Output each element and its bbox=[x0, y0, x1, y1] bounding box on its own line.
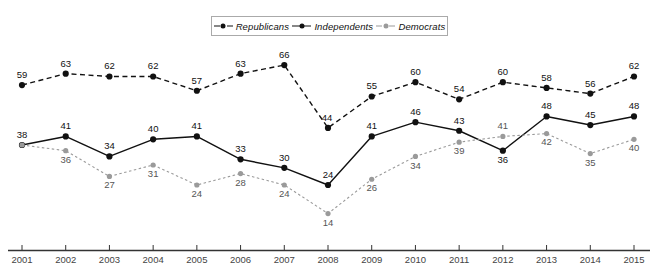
data-point[interactable] bbox=[281, 165, 287, 171]
data-point[interactable] bbox=[150, 73, 156, 79]
x-axis-tick-label: 2013 bbox=[536, 254, 557, 265]
data-point[interactable] bbox=[369, 177, 374, 182]
data-point-label: 35 bbox=[585, 157, 596, 168]
data-point-label: 46 bbox=[410, 106, 421, 117]
data-point-label: 56 bbox=[585, 78, 596, 89]
x-axis-tick-label: 2003 bbox=[99, 254, 120, 265]
x-axis-tick-label: 2007 bbox=[274, 254, 295, 265]
data-point[interactable] bbox=[63, 71, 69, 77]
data-point-label: 36 bbox=[60, 154, 71, 165]
data-point[interactable] bbox=[500, 134, 505, 139]
data-point-label: 27 bbox=[104, 179, 115, 190]
data-point-label: 59 bbox=[17, 69, 28, 80]
data-point[interactable] bbox=[631, 73, 637, 79]
data-point[interactable] bbox=[369, 93, 375, 99]
data-point[interactable] bbox=[587, 91, 593, 97]
data-point-label: 24 bbox=[279, 188, 290, 199]
data-point-label: 41 bbox=[498, 120, 509, 131]
data-point[interactable] bbox=[237, 156, 243, 162]
x-axis-tick-label: 2011 bbox=[449, 254, 469, 265]
x-axis: 2001200220032004200520062007200820092010… bbox=[8, 245, 650, 265]
data-point[interactable] bbox=[456, 96, 462, 102]
data-point-label: 66 bbox=[279, 49, 290, 60]
data-point-label: 41 bbox=[60, 120, 71, 131]
data-point-label: 62 bbox=[629, 60, 640, 71]
data-point-label: 41 bbox=[192, 120, 203, 131]
data-point-label: 34 bbox=[410, 160, 421, 171]
data-point[interactable] bbox=[412, 79, 418, 85]
x-axis-tick-label: 2005 bbox=[186, 254, 207, 265]
data-point-label: 24 bbox=[323, 169, 334, 180]
data-point-label: 14 bbox=[323, 217, 334, 228]
data-point-label: 58 bbox=[541, 72, 552, 83]
data-point[interactable] bbox=[413, 154, 418, 159]
data-point[interactable] bbox=[282, 182, 287, 187]
data-point-label: 63 bbox=[60, 58, 71, 69]
data-point[interactable] bbox=[412, 119, 418, 125]
data-point[interactable] bbox=[325, 211, 330, 216]
data-point[interactable] bbox=[238, 171, 243, 176]
data-point-label: 55 bbox=[366, 80, 377, 91]
line-chart: Republicans Independents Democrats 20012… bbox=[0, 0, 656, 278]
x-axis-tick-label: 2012 bbox=[492, 254, 513, 265]
x-axis-tick-label: 2001 bbox=[11, 254, 32, 265]
data-point[interactable] bbox=[325, 182, 331, 188]
data-point[interactable] bbox=[325, 125, 331, 131]
data-point[interactable] bbox=[457, 140, 462, 145]
data-point-label: 62 bbox=[148, 60, 159, 71]
x-axis-tick-label: 2002 bbox=[55, 254, 76, 265]
data-point-label: 41 bbox=[366, 120, 377, 131]
data-point[interactable] bbox=[500, 79, 506, 85]
data-point[interactable] bbox=[543, 113, 549, 119]
plot-area: 2001200220032004200520062007200820092010… bbox=[0, 0, 656, 278]
x-axis-tick-label: 2014 bbox=[580, 254, 601, 265]
data-point[interactable] bbox=[150, 136, 156, 142]
data-point-label: 31 bbox=[148, 168, 159, 179]
data-point[interactable] bbox=[106, 73, 112, 79]
data-point-label: 60 bbox=[498, 66, 509, 77]
data-point-label: 42 bbox=[541, 136, 552, 147]
data-point[interactable] bbox=[63, 148, 68, 153]
data-point-label: 57 bbox=[192, 75, 203, 86]
data-point[interactable] bbox=[19, 82, 25, 88]
data-point[interactable] bbox=[107, 174, 112, 179]
data-point[interactable] bbox=[587, 122, 593, 128]
data-point[interactable] bbox=[194, 133, 200, 139]
x-axis-tick-label: 2006 bbox=[230, 254, 251, 265]
data-point-label: 44 bbox=[322, 112, 333, 123]
data-point-label: 48 bbox=[629, 100, 640, 111]
data-point[interactable] bbox=[369, 133, 375, 139]
data-point[interactable] bbox=[63, 133, 69, 139]
data-point[interactable] bbox=[631, 137, 636, 142]
x-axis-tick-label: 2015 bbox=[623, 254, 644, 265]
data-point-label: 48 bbox=[541, 100, 552, 111]
data-point-label: 24 bbox=[192, 188, 203, 199]
data-point-label: 54 bbox=[454, 83, 465, 94]
data-point-label: 62 bbox=[104, 60, 115, 71]
x-axis-tick-label: 2010 bbox=[405, 254, 426, 265]
data-point-label: 30 bbox=[279, 152, 290, 163]
x-axis-tick-label: 2004 bbox=[143, 254, 164, 265]
data-point[interactable] bbox=[237, 71, 243, 77]
data-point-label: 36 bbox=[498, 154, 509, 165]
data-point[interactable] bbox=[194, 88, 200, 94]
data-point-label: 26 bbox=[366, 182, 377, 193]
data-point-label: 43 bbox=[454, 115, 465, 126]
data-point-label: 33 bbox=[235, 143, 246, 154]
data-point-label: 60 bbox=[410, 66, 421, 77]
data-point-label: 63 bbox=[235, 58, 246, 69]
data-point[interactable] bbox=[543, 85, 549, 91]
data-point[interactable] bbox=[19, 142, 24, 147]
data-point[interactable] bbox=[588, 151, 593, 156]
data-point[interactable] bbox=[631, 113, 637, 119]
data-point-label: 34 bbox=[104, 140, 115, 151]
x-axis-tick-label: 2008 bbox=[317, 254, 338, 265]
data-point[interactable] bbox=[456, 128, 462, 134]
data-point[interactable] bbox=[106, 153, 112, 159]
data-point-label: 40 bbox=[629, 142, 640, 153]
data-point-label: 39 bbox=[454, 145, 465, 156]
data-point-label: 28 bbox=[235, 177, 246, 188]
data-point[interactable] bbox=[281, 62, 287, 68]
data-point[interactable] bbox=[194, 182, 199, 187]
data-point[interactable] bbox=[151, 162, 156, 167]
